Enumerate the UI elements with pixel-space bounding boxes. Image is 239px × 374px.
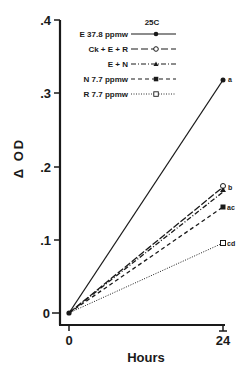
y-tick-label: .1	[40, 233, 51, 248]
end-label-a: a	[228, 76, 232, 83]
series-line-n77	[69, 207, 223, 313]
legend-marker-filled-square	[154, 77, 159, 82]
end-label-cd: cd	[227, 240, 235, 247]
origin-marker	[66, 310, 71, 315]
marker-open-square	[221, 241, 226, 246]
marker-filled-circle	[221, 78, 226, 83]
legend-label: E 37.8 ppmw	[80, 30, 129, 39]
series-line-ck-e-r	[69, 187, 223, 313]
legend-marker-open-circle	[154, 47, 159, 52]
end-label-ac: ac	[227, 204, 235, 211]
y-tick-label: 0	[43, 306, 50, 321]
line-chart: .4 .3 .2 .1 0 0 24 Hours Δ OD	[0, 0, 239, 374]
x-tick-label: 24	[216, 333, 231, 348]
y-axis-title: Δ OD	[11, 138, 26, 178]
end-label-b: b	[228, 184, 232, 191]
legend-label: Ck + E + R	[88, 45, 128, 54]
y-tick-label: .3	[40, 86, 51, 101]
series-line-e378	[69, 80, 223, 313]
y-tick-label: .2	[40, 160, 51, 175]
x-axis-title: Hours	[127, 350, 165, 365]
legend-marker-open-square	[154, 92, 159, 97]
legend-label: N 7.7 ppmw	[84, 75, 129, 84]
series-lines: a b ac cd	[66, 76, 235, 316]
legend-label: E + N	[108, 60, 128, 69]
legend-label: R 7.7 ppmw	[84, 90, 129, 99]
marker-filled-square	[221, 205, 226, 210]
y-tick-label: .4	[40, 13, 52, 28]
legend: 25C E 37.8 ppmw Ck + E + R E + N N 7.7 p…	[80, 18, 176, 99]
x-tick-label: 0	[65, 333, 72, 348]
legend-marker-filled-circle	[154, 32, 159, 37]
legend-title: 25C	[145, 18, 160, 27]
